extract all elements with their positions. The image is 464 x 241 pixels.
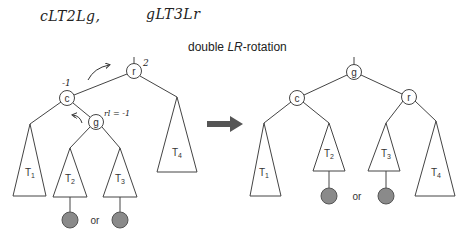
edge-g-c [304, 75, 347, 95]
edge-r-c [74, 74, 127, 95]
node-g-label: g [93, 117, 99, 128]
edge-g-t2 [70, 127, 90, 148]
subtree-t4-triangle [415, 121, 455, 196]
subtree-t1-label: T1 [25, 167, 35, 179]
subtree-t3-label: T3 [115, 173, 125, 185]
subtree-t4-label: T4 [172, 147, 182, 159]
subtree-t2-triangle [313, 123, 345, 171]
subtree-t1-triangle [13, 124, 46, 196]
edge-c-g [73, 103, 90, 117]
subtree-t3-label: T3 [381, 148, 391, 160]
subtree-t4-triangle [157, 97, 197, 172]
new-leaf-t3 [378, 188, 394, 204]
edge-g-t3 [102, 127, 120, 148]
node-c-label: c [65, 93, 70, 104]
edge-g-r [361, 75, 402, 94]
rotation-arrow-icon [88, 65, 109, 80]
after-tree [250, 57, 455, 204]
edge-c-t1 [264, 102, 291, 123]
edge-r-t3 [386, 101, 403, 123]
node-g-label: g [351, 67, 357, 78]
balance-c: -1 [62, 78, 71, 88]
edge-c-t2 [303, 102, 329, 123]
subtree-t2-label: T2 [324, 148, 334, 160]
new-leaf-t2 [321, 188, 337, 204]
rotation-diagram: r c g 2 -1 rl = -1 T1 T2 T3 T4 or [0, 0, 464, 241]
or-label-before: or [91, 215, 101, 226]
subtree-t4-label: T4 [431, 167, 441, 179]
node-c-label: c [295, 93, 300, 104]
edge-r-t4 [415, 101, 436, 121]
before-tree [13, 57, 197, 228]
transition-arrow-icon [207, 116, 243, 132]
subtree-t3-triangle [368, 123, 400, 171]
new-leaf-t2 [62, 212, 78, 228]
or-label-after: or [353, 191, 363, 202]
rotation-arrow-small-icon [73, 115, 82, 123]
edge-c-t1 [30, 102, 61, 124]
balance-g: rl = -1 [104, 109, 130, 118]
subtree-t1-label: T1 [259, 167, 269, 179]
new-leaf-t3 [112, 212, 128, 228]
balance-r: 2 [142, 58, 149, 68]
edge-r-t4 [140, 76, 177, 97]
subtree-t1-triangle [250, 123, 281, 196]
subtree-t2-label: T2 [65, 173, 75, 185]
